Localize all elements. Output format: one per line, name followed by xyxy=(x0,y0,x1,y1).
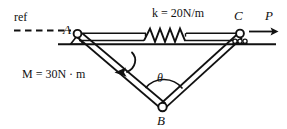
spring-coil xyxy=(144,29,185,42)
label-point-a: A xyxy=(63,23,71,36)
joint-pin-c xyxy=(236,30,244,38)
joint-pin-b xyxy=(158,103,166,111)
label-force-p: P xyxy=(265,9,273,22)
label-moment: M = 30N · m xyxy=(22,68,85,80)
link-bc-edge-1 xyxy=(167,38,243,107)
label-point-c: C xyxy=(234,9,243,22)
joint-pin-a xyxy=(74,30,82,38)
figure-canvas: ref A B C P k = 20N/m M = 30N · m θ xyxy=(0,0,287,129)
label-spring-stiffness: k = 20N/m xyxy=(152,7,204,19)
roller-2 xyxy=(238,39,242,43)
theta-angle-arc xyxy=(146,80,183,89)
link-bc xyxy=(162,35,243,107)
label-theta: θ xyxy=(157,72,163,84)
label-point-b: B xyxy=(157,114,165,127)
moment-arrow xyxy=(115,53,136,77)
ref-label: ref xyxy=(14,11,27,23)
joint-pin-b-group xyxy=(158,103,166,111)
pin-support-a xyxy=(71,30,84,44)
theta-arc-path xyxy=(146,80,183,89)
moment-arrow-curve xyxy=(127,53,135,73)
roller-1 xyxy=(233,39,237,43)
spring-zigzag xyxy=(144,29,185,42)
moment-arrowhead xyxy=(115,68,127,77)
mechanics-diagram xyxy=(0,0,287,129)
force-p-arrow xyxy=(249,28,279,36)
roller-3 xyxy=(243,39,247,43)
member-ac-group xyxy=(79,33,241,40)
